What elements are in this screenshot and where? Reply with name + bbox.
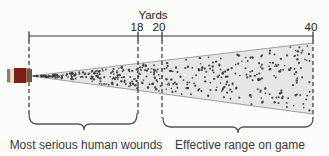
shotshell-rim — [7, 69, 11, 83]
tick-label-20: 20 — [153, 21, 166, 33]
shotshell-icon — [7, 68, 32, 83]
scale-title: Yards — [138, 9, 167, 21]
shotshell-tip — [27, 69, 33, 82]
label-human-wounds: Most serious human wounds — [10, 138, 163, 152]
shotshell-band — [11, 69, 15, 84]
shotshell-body — [14, 68, 27, 83]
tick-label-40: 40 — [305, 21, 318, 33]
tick-label-18: 18 — [131, 21, 144, 33]
spread-diagram: Yards 18 20 40 Most serious h — [0, 0, 329, 156]
diagram-canvas: Yards 18 20 40 Most serious h — [0, 0, 329, 156]
brace-human-wounds — [29, 114, 137, 130]
brace-game-range — [163, 118, 313, 133]
label-game-range: Effective range on game — [175, 138, 305, 152]
